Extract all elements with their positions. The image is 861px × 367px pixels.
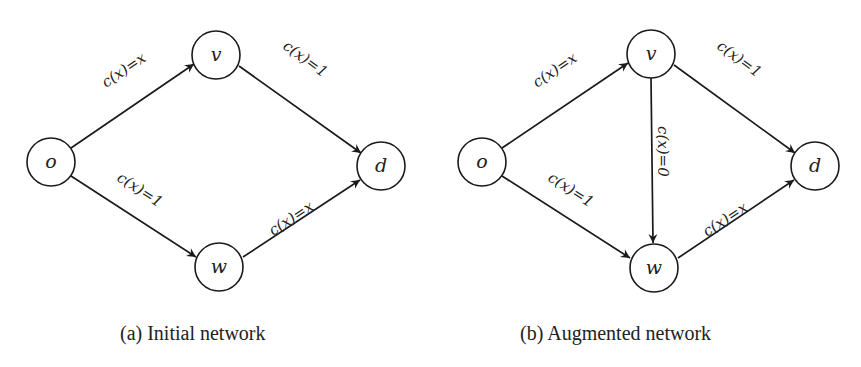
node-o: o — [458, 138, 506, 186]
edge-label-v-d: c(x)=1 — [280, 37, 332, 81]
node-w: w — [195, 243, 243, 291]
edge-label-o-w: c(x)=1 — [545, 168, 597, 211]
node-o: o — [27, 138, 75, 186]
panel-a-initial-network: c(x)=x c(x)=1 c(x)=1 c(x)=x o v w d — [27, 31, 405, 291]
edge-o-v — [502, 63, 628, 148]
edge-v-w — [651, 78, 653, 243]
edge-o-v — [71, 64, 194, 148]
svg-text:d: d — [375, 154, 387, 176]
svg-text:o: o — [45, 150, 56, 172]
network-figure: c(x)=x c(x)=1 c(x)=1 c(x)=x o v w d c(x) — [0, 0, 861, 367]
edge-v-d — [674, 65, 795, 153]
node-v: v — [192, 31, 240, 79]
edge-label-v-w: c(x)=0 — [654, 126, 672, 177]
panel-b-augmented-network: c(x)=x c(x)=1 c(x)=0 c(x)=1 c(x)=x o v w… — [458, 30, 839, 292]
node-w: w — [630, 244, 678, 292]
node-d: d — [791, 142, 839, 190]
edge-label-o-v: c(x)=x — [529, 48, 581, 91]
caption-augmented-network: (b) Augmented network — [520, 322, 711, 345]
svg-text:v: v — [646, 42, 657, 64]
caption-initial-network: (a) Initial network — [120, 322, 266, 345]
edge-label-o-v: c(x)=x — [98, 48, 150, 91]
edge-v-d — [239, 66, 361, 153]
edge-label-w-d: c(x)=x — [699, 198, 751, 240]
edge-label-o-w: c(x)=1 — [114, 168, 166, 211]
svg-text:o: o — [476, 150, 487, 172]
svg-text:w: w — [211, 255, 227, 277]
svg-text:w: w — [646, 256, 662, 278]
svg-text:d: d — [809, 154, 821, 176]
edge-label-v-d: c(x)=1 — [714, 37, 766, 81]
svg-text:v: v — [211, 43, 222, 65]
edge-label-w-d: c(x)=x — [265, 197, 317, 239]
node-v: v — [627, 30, 675, 78]
node-d: d — [357, 142, 405, 190]
